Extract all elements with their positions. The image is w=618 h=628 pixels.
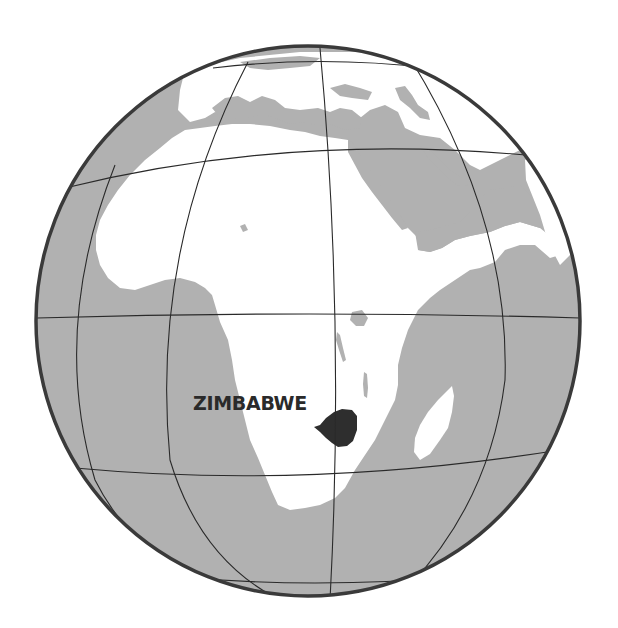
globe-map [0,0,618,628]
country-label-zimbabwe: ZIMBABWE [193,392,307,414]
